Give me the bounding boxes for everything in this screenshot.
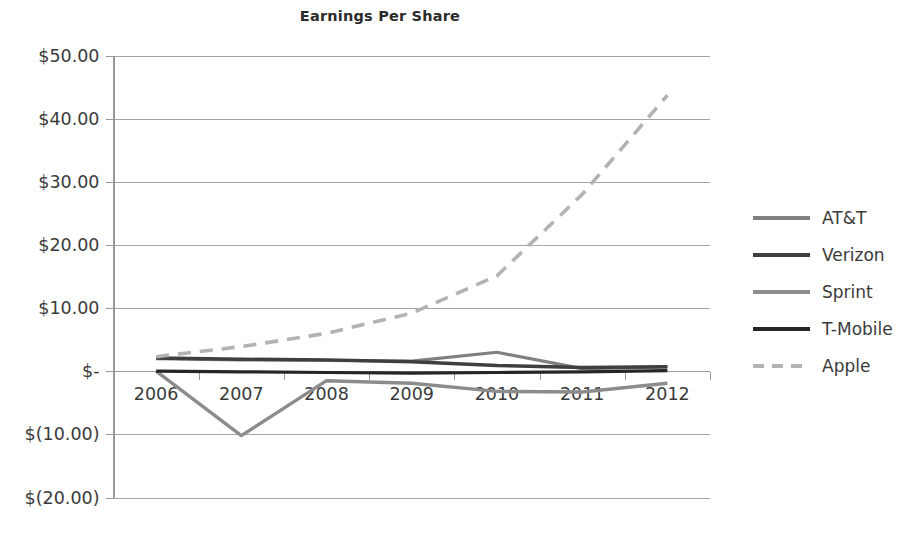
x-axis-tick-label: 2007: [219, 384, 264, 404]
y-axis-tick-label: $(10.00): [25, 424, 100, 444]
y-axis-tick-label: $(20.00): [25, 488, 100, 508]
legend-label-apple: Apple: [822, 356, 870, 376]
legend-label-at-t: AT&T: [822, 208, 867, 228]
chart-plot-area: $50.00$40.00$30.00$20.00$10.00$-$(10.00)…: [0, 0, 920, 545]
series-line-verizon: [156, 358, 667, 367]
y-axis-tick-label: $10.00: [38, 298, 99, 318]
series-line-apple: [156, 95, 667, 356]
legend-label-sprint: Sprint: [822, 282, 873, 302]
earnings-per-share-chart: Earnings Per Share $50.00$40.00$30.00$20…: [0, 0, 920, 545]
y-axis-tick-label: $50.00: [38, 46, 99, 66]
x-axis-tick-label: 2010: [475, 384, 520, 404]
gridlines-group: [114, 57, 711, 499]
legend-label-t-mobile: T-Mobile: [821, 319, 893, 339]
y-axis-tick-label: $40.00: [38, 109, 99, 129]
legend: AT&TVerizonSprintT-MobileApple: [753, 208, 893, 376]
legend-label-verizon: Verizon: [822, 245, 885, 265]
y-axis-tick-label: $-: [82, 361, 99, 381]
y-axis-tick-label: $30.00: [38, 172, 99, 192]
y-axis-tick-labels: $50.00$40.00$30.00$20.00$10.00$-$(10.00)…: [25, 46, 114, 508]
x-axis-tick-label: 2006: [134, 384, 179, 404]
x-axis-tick-labels: 2006200720082009201020112012: [134, 384, 690, 404]
x-axis-tick-label: 2009: [389, 384, 434, 404]
y-axis-tick-label: $20.00: [38, 235, 99, 255]
x-axis-tick-label: 2008: [304, 384, 349, 404]
